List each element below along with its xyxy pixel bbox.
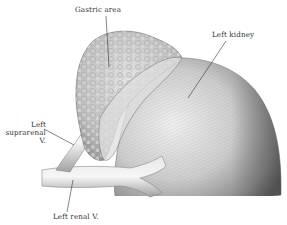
- label-line: V.: [2, 137, 46, 145]
- label-left-renal-vein: Left renal V.: [53, 213, 99, 221]
- anatomical-illustration: Gastric area Left kidney Left suprarenal…: [0, 0, 287, 225]
- label-left-suprarenal-vein: Left suprarenal V.: [2, 121, 46, 145]
- label-left-kidney: Left kidney: [212, 31, 254, 39]
- label-gastric-area: Gastric area: [75, 6, 121, 14]
